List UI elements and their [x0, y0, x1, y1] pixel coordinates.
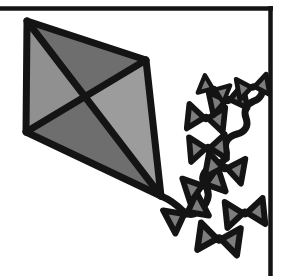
illustration-artboard: Black and white clip art of a diamond ki…: [0, 0, 285, 276]
kite-illustration: [0, 0, 285, 276]
